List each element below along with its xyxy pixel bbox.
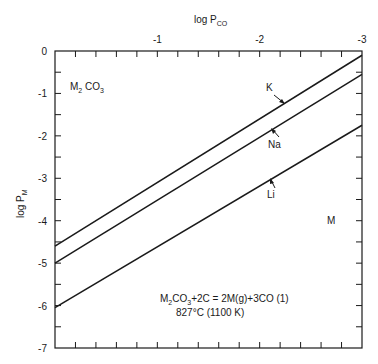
svg-text:-5: -5	[38, 258, 47, 269]
line-na	[55, 74, 362, 263]
x-axis-title: log PCO	[194, 14, 228, 27]
svg-text:-1: -1	[153, 34, 162, 45]
svg-text:-2: -2	[38, 131, 47, 142]
svg-text:-2: -2	[255, 34, 264, 45]
phase-diagram-chart: log PCO log PM -1-2-3 0-1-2-3-4-5-6-7 K …	[0, 0, 378, 364]
y-ticks	[55, 72, 362, 327]
svg-text:-3: -3	[358, 34, 367, 45]
region-label-carbonate: M2 CO3	[70, 81, 104, 94]
region-label-metal: M	[327, 215, 335, 226]
reaction-equation: M2CO3+2C = 2M(g)+3CO (1)	[160, 293, 289, 306]
line-k	[55, 55, 362, 246]
svg-text:Na: Na	[268, 139, 281, 150]
svg-text:Li: Li	[267, 189, 275, 200]
y-axis-title: log PM	[15, 189, 28, 218]
svg-text:K: K	[266, 82, 273, 93]
x-tick-labels: -1-2-3	[153, 34, 367, 45]
svg-text:-3: -3	[38, 173, 47, 184]
svg-text:-6: -6	[38, 301, 47, 312]
svg-text:0: 0	[41, 46, 47, 57]
svg-text:-7: -7	[38, 343, 47, 354]
svg-text:-4: -4	[38, 216, 47, 227]
svg-text:-1: -1	[38, 88, 47, 99]
y-tick-labels: 0-1-2-3-4-5-6-7	[38, 46, 47, 354]
label-k: K	[266, 82, 285, 104]
reaction-condition: 827°C (1100 K)	[176, 307, 244, 318]
line-li	[55, 125, 362, 307]
